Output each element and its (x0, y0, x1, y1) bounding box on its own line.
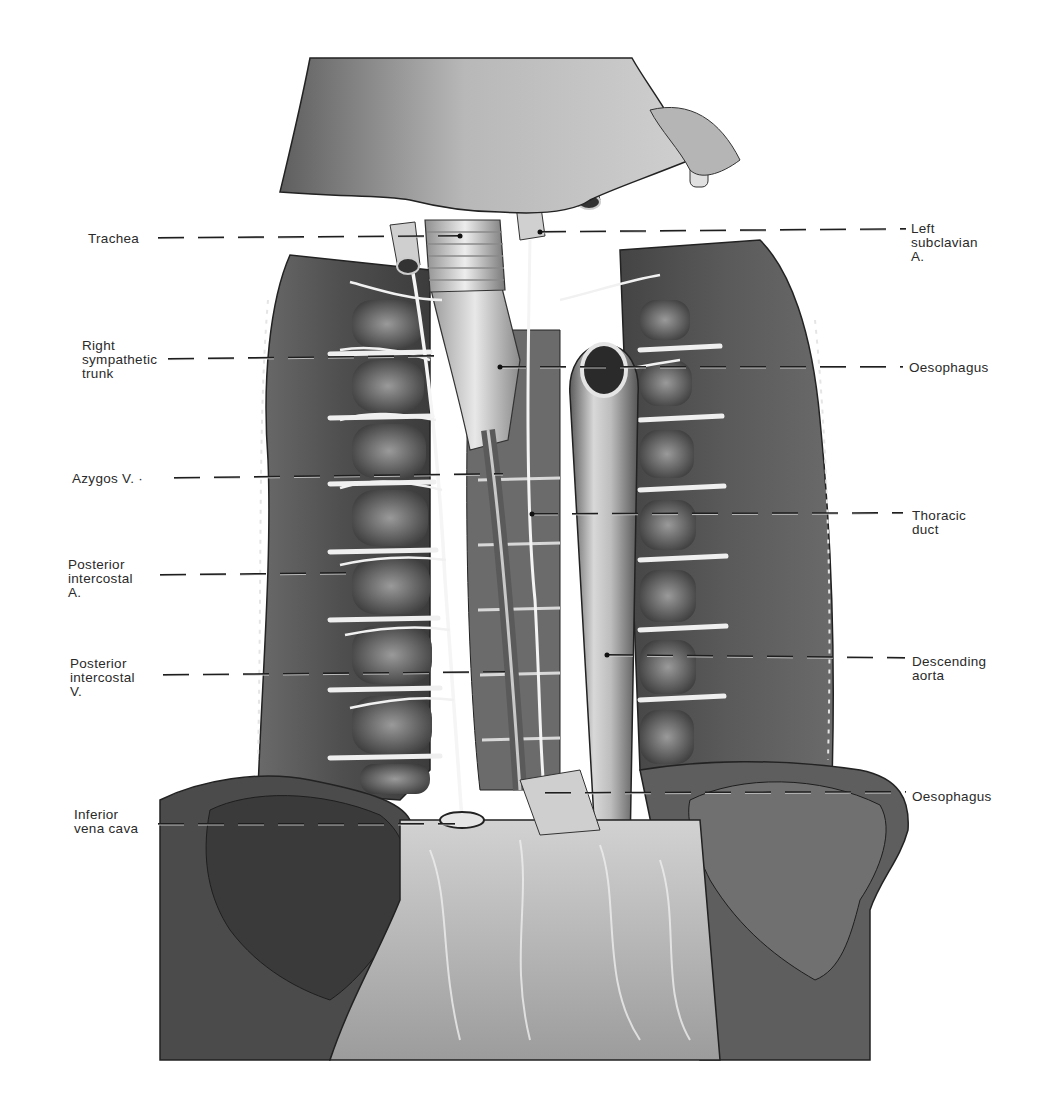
inferior-vena-cava-stump (440, 812, 484, 828)
label-posterior-intercostal-a: Posterior intercostal A. (68, 558, 133, 600)
label-thoracic-duct: Thoracic duct (912, 509, 966, 537)
label-oesophagus-lower: Oesophagus (912, 790, 992, 804)
label-oesophagus-upper: Oesophagus (909, 361, 989, 375)
anatomy-illustration (0, 0, 1059, 1114)
neck-soft-tissue (280, 58, 690, 213)
label-left-subclavian-a: Left subclavian A. (911, 222, 978, 264)
label-descending-aorta: Descending aorta (912, 655, 986, 683)
label-azygos-v: Azygos V. · (72, 472, 143, 486)
oesophagus (430, 280, 520, 450)
label-right-sympathetic-trunk: Right sympathetic trunk (82, 339, 157, 381)
label-trachea: Trachea (88, 232, 139, 246)
label-posterior-intercostal-v: Posterior intercostal V. (70, 657, 135, 699)
label-inferior-vena-cava: Inferior vena cava (74, 808, 138, 836)
aortic-lumen (582, 344, 626, 396)
